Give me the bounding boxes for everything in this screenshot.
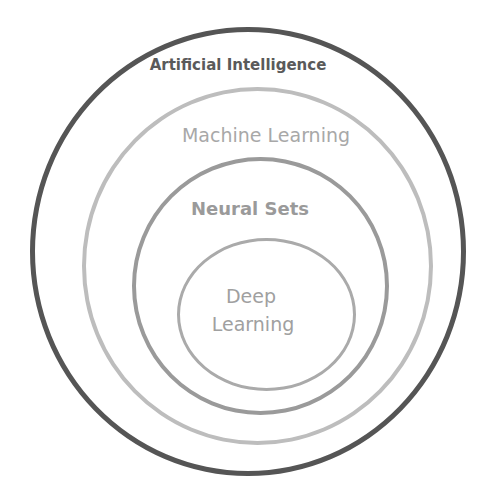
dl-label-line2: Learning [212, 313, 295, 335]
dl-label-line1: Deep [226, 285, 276, 307]
ns-label: Neural Sets [191, 198, 309, 219]
ai-label: Artificial Intelligence [150, 56, 327, 74]
ml-label: Machine Learning [182, 124, 350, 146]
